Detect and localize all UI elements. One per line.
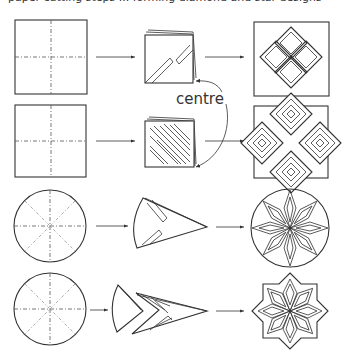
cone-with-cuts [134, 198, 207, 248]
four-diamonds-result [254, 22, 329, 96]
eight-point-star-result [252, 273, 328, 349]
row-4 [14, 273, 328, 349]
row-3 [14, 189, 329, 267]
circle-with-fold-lines [14, 273, 86, 345]
row-1 [15, 20, 329, 96]
cone-with-chevron-cuts [112, 285, 207, 334]
square-with-fold-lines [15, 20, 87, 94]
paper-cutting-diagram: centre [0, 0, 359, 363]
square-with-fold-lines [15, 105, 86, 177]
folded-square-with-cuts [145, 30, 196, 83]
row-2 [15, 93, 341, 193]
circle-with-fold-lines [14, 190, 86, 262]
nested-diamonds-cross-result [241, 93, 341, 193]
centre-label: centre [176, 90, 224, 108]
star-in-circle-result [251, 189, 329, 267]
folded-square-with-parallel-cuts [145, 117, 196, 167]
